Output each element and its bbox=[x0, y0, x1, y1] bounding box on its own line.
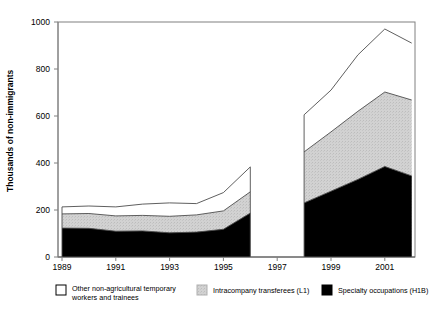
legend-swatch-other-temp-workers bbox=[56, 285, 66, 295]
y-axis-ticks bbox=[54, 22, 58, 257]
y-tick-label-800: 800 bbox=[36, 64, 50, 74]
y-tick-label-0: 0 bbox=[45, 252, 50, 262]
x-tick-label-1993: 1993 bbox=[160, 262, 179, 272]
y-axis-title: Thousands of non-immigrants bbox=[5, 69, 15, 192]
y-tick-label-400: 400 bbox=[36, 158, 50, 168]
y-tick-label-1000: 1000 bbox=[31, 17, 50, 27]
legend-label-specialty-occupations: Specialty occupations (H1B) bbox=[338, 286, 428, 295]
x-tick-label-2001: 2001 bbox=[375, 262, 394, 272]
legend-swatch-intracompany-transferees bbox=[197, 285, 207, 295]
chart-legend: Other non-agricultural temporary workers… bbox=[56, 284, 428, 302]
x-tick-label-1999: 1999 bbox=[322, 262, 341, 272]
x-tick-label-1991: 1991 bbox=[106, 262, 125, 272]
x-tick-label-1989: 1989 bbox=[53, 262, 72, 272]
y-tick-label-200: 200 bbox=[36, 205, 50, 215]
x-tick-label-1995: 1995 bbox=[214, 262, 233, 272]
y-tick-label-600: 600 bbox=[36, 111, 50, 121]
legend-swatch-specialty-occupations bbox=[322, 285, 332, 295]
x-tick-label-1997: 1997 bbox=[268, 262, 287, 272]
x-axis-ticks bbox=[62, 257, 385, 261]
legend-label-intracompany-transferees: Intracompany transferees (L1) bbox=[213, 286, 309, 295]
non-immigrant-stacked-area-chart: Thousands of non-immigrants 1000 800 600… bbox=[0, 0, 432, 310]
legend-label-other-temp-workers-line2: workers and trainees bbox=[71, 293, 139, 302]
chart-container: Thousands of non-immigrants 1000 800 600… bbox=[0, 0, 432, 310]
legend-label-other-temp-workers-line1: Other non-agricultural temporary bbox=[72, 284, 176, 293]
